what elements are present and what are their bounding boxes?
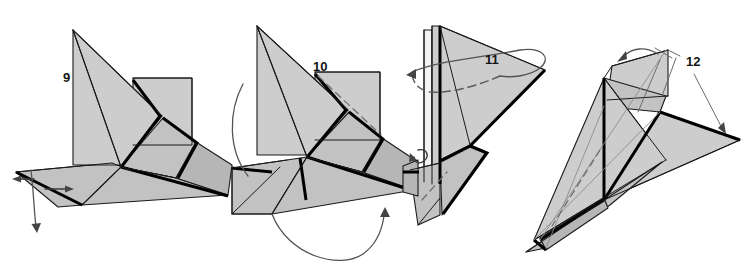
step-label-12: 12 (686, 54, 700, 69)
step-label-9: 9 (63, 70, 70, 85)
diagram-canvas: 9 (0, 0, 748, 270)
step-label-10: 10 (313, 59, 327, 74)
origami-diagram: 9 (0, 0, 748, 270)
step-label-11: 11 (485, 52, 499, 67)
figure-11-left-gusset (403, 160, 418, 196)
